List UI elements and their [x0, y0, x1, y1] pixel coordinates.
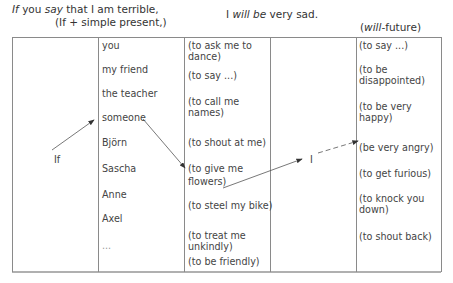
arrow-i-to-result [318, 141, 358, 153]
arrows-layer [0, 0, 453, 283]
arrow-if-to-subject [52, 120, 94, 150]
arrow-clause-to-i [223, 159, 302, 188]
arrow-subject-to-clause [143, 119, 185, 168]
